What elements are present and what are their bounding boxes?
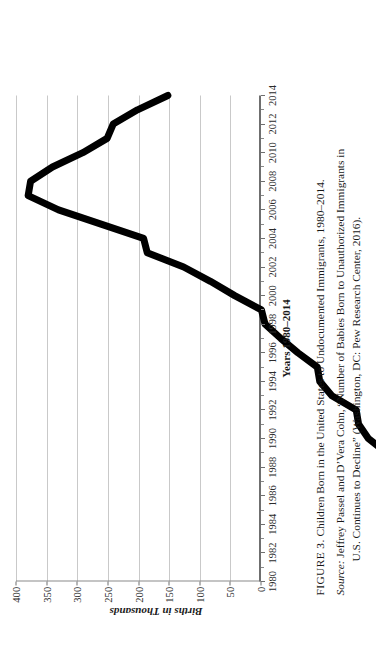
source-label: Source:	[334, 560, 346, 595]
x-tick-mark-minor	[261, 366, 264, 367]
x-tick-mark-minor	[261, 566, 264, 567]
y-tick-label: 350	[41, 586, 52, 602]
x-tick-mark	[261, 95, 265, 96]
x-tick-mark	[261, 552, 265, 553]
x-tick-mark-minor	[261, 195, 264, 196]
x-tick-label: 2002	[267, 256, 278, 277]
figure-caption: FIGURE 3. Children Born in the United St…	[312, 65, 365, 595]
x-tick-mark-minor	[261, 280, 264, 281]
x-axis-title: Years 1980–2014	[280, 95, 292, 581]
y-tick-mark	[199, 581, 200, 585]
plot-area: 050100150200250300350400 198019821984198…	[16, 95, 261, 581]
caption-source-line: Source: Jeffrey Passel and D’Vera Cohn, …	[332, 65, 365, 595]
x-tick-mark-minor	[261, 509, 264, 510]
y-tick-mark	[169, 581, 170, 585]
x-tick-mark	[261, 438, 265, 439]
x-tick-mark	[261, 323, 265, 324]
x-tick-mark-minor	[261, 423, 264, 424]
y-tick-mark	[77, 581, 78, 585]
x-tick-label: 2006	[267, 199, 278, 220]
figure-chart: 050100150200250300350400 198019821984198…	[6, 79, 306, 639]
x-tick-label: 1980	[267, 571, 278, 592]
x-tick-mark	[261, 209, 265, 210]
x-tick-mark-minor	[261, 166, 264, 167]
y-axis-title: Births in Thousands	[76, 605, 236, 617]
x-tick-mark	[261, 495, 265, 496]
source-text-line2: U.S. Continues to Decline” (Washington, …	[348, 65, 365, 595]
x-tick-label: 1986	[267, 485, 278, 506]
x-tick-mark	[261, 352, 265, 353]
caption-title-line: FIGURE 3. Children Born in the United St…	[312, 65, 329, 595]
x-tick-label: 2010	[267, 142, 278, 163]
x-tick-mark-minor	[261, 538, 264, 539]
x-tick-label: 1984	[267, 513, 278, 534]
x-tick-mark-minor	[261, 223, 264, 224]
y-tick-label: 250	[102, 586, 113, 602]
x-tick-label: 1998	[267, 313, 278, 334]
page-content: 050100150200250300350400 198019821984198…	[0, 0, 376, 647]
y-tick-label: 150	[164, 586, 175, 602]
y-tick-mark	[107, 581, 108, 585]
x-tick-mark	[261, 180, 265, 181]
y-tick-label: 200	[133, 586, 144, 602]
y-tick-label: 100	[194, 586, 205, 602]
source-text-line1: Jeffrey Passel and D’Vera Cohn, “Number …	[334, 148, 346, 557]
y-tick-label: 0	[256, 586, 267, 591]
x-tick-label: 1982	[267, 542, 278, 563]
rotated-page: 050100150200250300350400 198019821984198…	[0, 0, 376, 647]
y-tick-mark	[46, 581, 47, 585]
x-tick-mark	[261, 123, 265, 124]
y-tick-mark	[230, 581, 231, 585]
y-tick-label: 400	[11, 586, 22, 602]
x-tick-mark	[261, 266, 265, 267]
x-tick-mark	[261, 409, 265, 410]
x-tick-label: 2004	[267, 227, 278, 248]
x-tick-mark	[261, 581, 265, 582]
x-tick-mark	[261, 237, 265, 238]
x-tick-mark	[261, 380, 265, 381]
x-tick-mark-minor	[261, 252, 264, 253]
x-tick-mark	[261, 466, 265, 467]
x-tick-mark-minor	[261, 452, 264, 453]
x-tick-mark-minor	[261, 395, 264, 396]
x-tick-label: 1988	[267, 456, 278, 477]
x-tick-label: 2000	[267, 285, 278, 306]
x-tick-mark-minor	[261, 338, 264, 339]
x-tick-label: 2012	[267, 113, 278, 134]
x-tick-label: 1994	[267, 370, 278, 391]
x-tick-mark-minor	[261, 137, 264, 138]
y-tick-label: 300	[72, 586, 83, 602]
x-tick-mark	[261, 152, 265, 153]
x-tick-label: 1990	[267, 428, 278, 449]
x-tick-mark	[261, 523, 265, 524]
y-tick-mark	[138, 581, 139, 585]
figure-title: Children Born in the United States to Un…	[314, 179, 326, 536]
x-tick-mark-minor	[261, 109, 264, 110]
figure-number: FIGURE 3.	[314, 539, 326, 595]
y-tick-mark	[16, 581, 17, 585]
x-tick-mark-minor	[261, 309, 264, 310]
x-tick-mark-minor	[261, 480, 264, 481]
x-tick-mark	[261, 295, 265, 296]
x-tick-label: 1992	[267, 399, 278, 420]
x-tick-label: 1996	[267, 342, 278, 363]
y-tick-label: 50	[225, 586, 236, 597]
x-tick-label: 2014	[267, 85, 278, 106]
x-tick-label: 2008	[267, 170, 278, 191]
